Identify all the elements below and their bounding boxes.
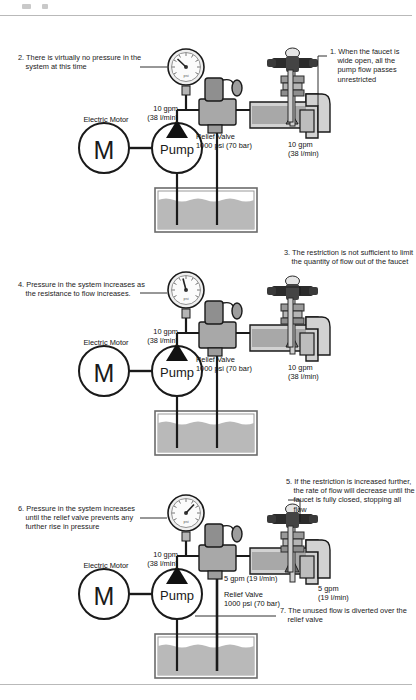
- outlet-flow-line1: 10 gpm: [288, 140, 348, 149]
- scan-artifact-1: [22, 4, 31, 9]
- svg-text:Pump: Pump: [160, 142, 194, 157]
- panel-2-schematic: M Pump psi: [0, 243, 412, 465]
- outlet-flow-line2: (38 l/min): [288, 149, 348, 158]
- relief-valve-line1: Relief Valve: [224, 590, 316, 599]
- electric-motor-panel-2: M: [79, 346, 129, 396]
- faucet-assembly-panel-2: [250, 276, 330, 361]
- relief-valve-line1: Relief Valve: [196, 355, 288, 364]
- svg-text:Pump: Pump: [160, 365, 194, 380]
- relief-valve-line2: 1000 psi (70 bar): [196, 364, 288, 373]
- top-rule: [0, 15, 412, 16]
- relief-valve-panel-2: [199, 301, 242, 356]
- panel-3: M Pump psi: [0, 466, 412, 681]
- outlet-flow-line1: 5 gpm: [318, 584, 378, 593]
- relief-valve-label-panel-3: Relief Valve 1000 psi (70 bar): [224, 590, 316, 608]
- svg-text:Pump: Pump: [160, 588, 194, 603]
- pump-flow-line1: 10 gpm: [130, 327, 178, 336]
- outlet-flow-label-panel-1: 10 gpm (38 l/min): [288, 140, 348, 158]
- callout-1-text: 1. When the faucet is wide open, all the…: [330, 47, 416, 84]
- relief-valve-line1: Relief Valve: [196, 132, 288, 141]
- motor-label-panel-2: Electric Motor: [71, 338, 141, 347]
- pump-flow-line1: 10 gpm: [130, 104, 178, 113]
- pump-panel-1: Pump: [152, 120, 202, 173]
- relief-valve-label-panel-1: Relief Valve 1000 psi (70 bar): [196, 132, 288, 150]
- bottom-rule: [0, 684, 412, 685]
- relief-valve-panel-3: [199, 524, 242, 579]
- svg-text:psi: psi: [183, 73, 188, 78]
- callout-5-text: 5. If the restriction is increased furth…: [286, 477, 416, 514]
- reservoir-panel-3: [155, 634, 257, 678]
- relief-valve-adjust-knob-panel-3: [232, 526, 242, 542]
- svg-text:M: M: [94, 359, 115, 387]
- outlet-flow-line1: 10 gpm: [288, 363, 348, 372]
- pressure-gauge-panel-1: psi: [168, 49, 204, 85]
- pressure-gauge-panel-2: psi: [168, 272, 204, 308]
- panel-1: M Pump psi: [0, 20, 412, 242]
- pump-panel-3: Pump: [152, 566, 202, 619]
- callout-7-text: 7. The unused flow is diverted over the …: [280, 606, 412, 624]
- callout-4-text: 4. Pressure in the system increases as t…: [18, 280, 150, 298]
- relief-valve-adjust-knob-panel-2: [232, 303, 242, 319]
- motor-label-panel-3: Electric Motor: [71, 561, 141, 570]
- relief-valve-adjust-knob-panel-1: [232, 80, 242, 96]
- callout-6-text: 6. Pressure in the system increases unti…: [18, 504, 144, 532]
- svg-text:psi: psi: [183, 296, 188, 301]
- reservoir-panel-1: [155, 188, 257, 232]
- callout-2-text: 2. There is virtually no pressure in the…: [18, 53, 148, 71]
- pump-panel-2: Pump: [152, 343, 202, 396]
- svg-text:psi: psi: [183, 519, 188, 524]
- pump-flow-line1: 10 gpm: [130, 550, 178, 559]
- faucet-assembly-panel-3: [250, 504, 330, 584]
- scan-artifact-2: [42, 4, 48, 9]
- outlet-flow-line2: (19 l/min): [318, 593, 378, 602]
- svg-text:M: M: [94, 136, 115, 164]
- outlet-flow-line2: (38 l/min): [288, 372, 348, 381]
- outlet-flow-label-panel-3: 5 gpm (19 l/min): [318, 584, 378, 602]
- relief-valve-line2: 1000 psi (70 bar): [224, 599, 316, 608]
- panel-2: M Pump psi: [0, 243, 412, 465]
- electric-motor-panel-3: M: [79, 569, 129, 619]
- relief-flow-label-panel-3: 5 gpm (19 l/min): [224, 574, 314, 583]
- motor-label-panel-1: Electric Motor: [71, 115, 141, 124]
- svg-text:M: M: [94, 582, 115, 610]
- relief-valve-label-panel-2: Relief Valve 1000 psi (70 bar): [196, 355, 288, 373]
- outlet-flow-label-panel-2: 10 gpm (38 l/min): [288, 363, 348, 381]
- pressure-gauge-panel-3: psi: [168, 495, 204, 531]
- electric-motor-panel-1: M: [79, 123, 129, 173]
- relief-valve-line2: 1000 psi (70 bar): [196, 141, 288, 150]
- relief-valve-panel-1: [199, 78, 242, 133]
- reservoir-panel-2: [155, 411, 257, 455]
- callout-3-text: 3. The restriction is not sufficient to …: [284, 248, 416, 266]
